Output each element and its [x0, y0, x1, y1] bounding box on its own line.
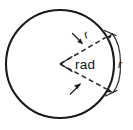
lower-radius-pointer-arrowhead-icon: [74, 83, 81, 89]
radian-figure-svg: rad r r: [0, 0, 133, 130]
radius-label-r: r: [81, 28, 91, 41]
radian-diagram: rad r r: [0, 0, 133, 130]
angle-label-rad: rad: [75, 57, 95, 72]
arc-length-label-r: r: [118, 58, 123, 70]
